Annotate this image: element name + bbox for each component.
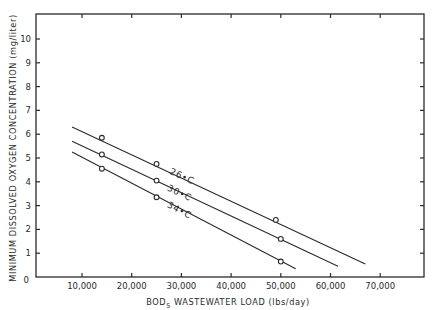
data-point-marker (278, 237, 283, 242)
y-tick-label: 6 (26, 129, 31, 139)
y-axis-title: MINIMUM DISSOLVED OXYGEN CONCENTRATION (… (8, 14, 18, 282)
series-line (72, 127, 365, 264)
y-tick-label: 8 (26, 82, 31, 92)
x-tick-label: 50,000 (266, 281, 296, 291)
data-point-marker (154, 195, 159, 200)
x-axis-title-rest: WASTEWATER LOAD (lbs/day) (171, 297, 310, 307)
y-tick-label: 3 (26, 201, 31, 211)
data-point-marker (99, 135, 104, 140)
x-tick-label: 70,000 (365, 281, 395, 291)
y-tick-label: 9 (26, 58, 31, 68)
data-point-marker (154, 162, 159, 167)
data-point-marker (154, 178, 159, 183)
x-tick-label: 10,000 (67, 281, 97, 291)
y-tick-label: 5 (26, 153, 31, 163)
series-30c: 30•C (72, 141, 338, 266)
plot-border (36, 14, 424, 277)
y-tick-label: 7 (26, 105, 31, 115)
x-axis: 10,00020,00030,00040,00050,00060,00070,0… (67, 14, 395, 291)
y-tick-label: 4 (26, 177, 31, 187)
x-tick-label: 20,000 (117, 281, 147, 291)
y-tick-label: 2 (26, 224, 31, 234)
series-26c: 26•C (72, 127, 365, 264)
data-point-marker (273, 217, 278, 222)
y-axis: 012345678910 (20, 34, 424, 285)
x-axis-title-main: BOD (146, 297, 166, 307)
data-point-marker (99, 166, 104, 171)
x-tick-label: 30,000 (167, 281, 197, 291)
chart: 012345678910 10,00020,00030,00040,00050,… (0, 0, 432, 310)
x-tick-label: 60,000 (316, 281, 346, 291)
series-line (72, 141, 338, 266)
x-tick-label: 40,000 (216, 281, 246, 291)
plot-frame (36, 14, 424, 277)
y-tick-label: 1 (26, 248, 31, 258)
series-34c: 34•C (72, 152, 296, 269)
data-point-marker (278, 259, 283, 264)
series-group: 26•C30•C34•C (72, 127, 365, 269)
y-tick-label: 0 (24, 275, 29, 285)
data-point-marker (99, 152, 104, 157)
x-axis-title: BOD5 WASTEWATER LOAD (lbs/day) (146, 297, 310, 310)
y-tick-label: 10 (20, 34, 31, 44)
